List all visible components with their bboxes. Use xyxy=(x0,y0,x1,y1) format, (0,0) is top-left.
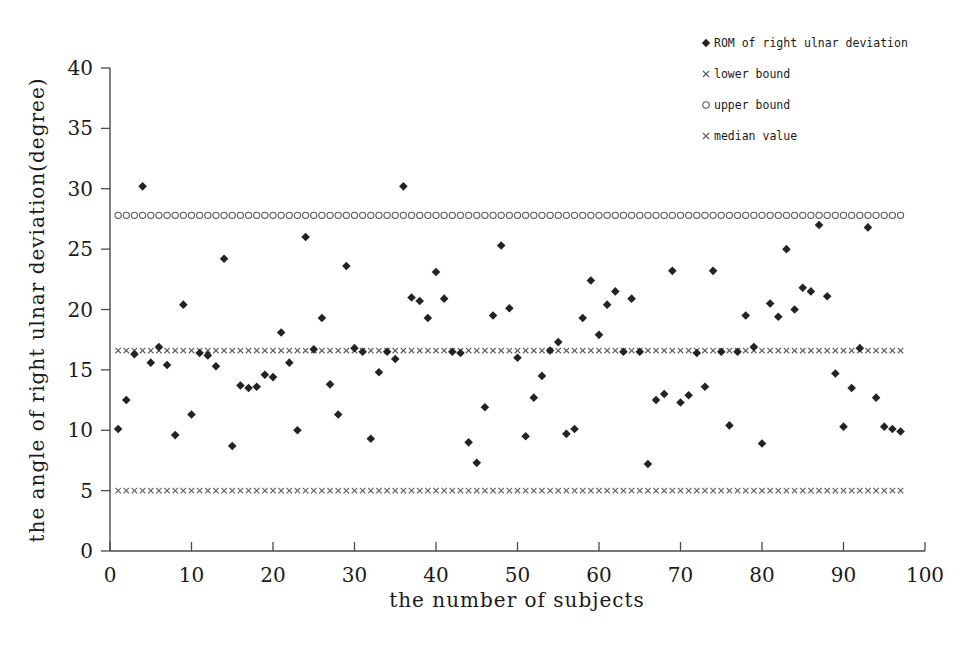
reference-marker xyxy=(588,348,593,353)
reference-marker xyxy=(776,348,781,353)
chart-legend: ROM of right ulnar deviationlower boundu… xyxy=(702,36,908,143)
reference-marker xyxy=(727,348,732,353)
data-point xyxy=(179,300,188,309)
reference-marker xyxy=(417,348,422,353)
data-point xyxy=(456,349,465,358)
x-tick-label: 10 xyxy=(179,563,204,587)
reference-marker xyxy=(474,348,479,353)
reference-marker xyxy=(596,212,602,218)
data-point xyxy=(554,338,563,347)
data-point xyxy=(497,241,506,250)
reference-marker xyxy=(743,212,749,218)
reference-marker xyxy=(808,212,814,218)
reference-marker xyxy=(743,348,748,353)
legend-label: upper bound xyxy=(714,98,790,112)
reference-marker xyxy=(449,212,455,218)
x-axis-ticks: 0102030405060708090100 xyxy=(104,542,944,587)
reference-marker xyxy=(482,212,488,218)
reference-marker xyxy=(734,212,740,218)
data-point xyxy=(301,233,310,242)
data-point xyxy=(839,422,848,431)
reference-marker xyxy=(841,488,846,493)
reference-marker xyxy=(873,212,879,218)
reference-marker xyxy=(515,348,520,353)
reference-marker xyxy=(775,212,781,218)
reference-marker xyxy=(637,488,642,493)
reference-marker xyxy=(474,212,480,218)
reference-marker xyxy=(417,488,422,493)
reference-marker xyxy=(645,348,650,353)
scatter-chart-figure: 0510152025303540 0102030405060708090100 … xyxy=(0,0,976,655)
reference-marker xyxy=(849,488,854,493)
reference-marker xyxy=(352,488,357,493)
reference-marker xyxy=(376,488,381,493)
reference-marker xyxy=(604,348,609,353)
reference-marker xyxy=(710,212,716,218)
data-point xyxy=(489,311,498,320)
reference-marker xyxy=(148,348,153,353)
reference-marker xyxy=(588,488,593,493)
reference-marker xyxy=(572,348,577,353)
legend-label: ROM of right ulnar deviation xyxy=(714,36,908,50)
reference-marker xyxy=(262,348,267,353)
reference-marker xyxy=(727,488,732,493)
reference-marker xyxy=(246,348,251,353)
reference-marker xyxy=(849,348,854,353)
y-tick-label: 20 xyxy=(68,298,93,322)
data-point xyxy=(733,347,742,356)
reference-marker xyxy=(620,212,626,218)
reference-marker xyxy=(629,348,634,353)
reference-marker xyxy=(327,488,332,493)
reference-marker xyxy=(197,212,203,218)
reference-marker xyxy=(181,348,186,353)
reference-marker xyxy=(148,212,154,218)
data-point xyxy=(619,347,628,356)
data-point xyxy=(758,439,767,448)
reference-marker xyxy=(237,212,243,218)
data-point xyxy=(570,425,579,434)
reference-marker xyxy=(523,212,529,218)
reference-marker xyxy=(653,212,659,218)
reference-marker xyxy=(539,488,544,493)
reference-marker xyxy=(343,212,349,218)
y-tick-label: 15 xyxy=(68,358,93,382)
reference-marker xyxy=(188,212,194,218)
reference-marker xyxy=(221,488,226,493)
data-point xyxy=(717,347,726,356)
reference-marker xyxy=(890,488,895,493)
data-point xyxy=(823,292,832,301)
reference-marker xyxy=(466,212,472,218)
data-point xyxy=(725,421,734,430)
reference-marker xyxy=(694,212,700,218)
reference-marker xyxy=(238,348,243,353)
reference-marker xyxy=(115,488,120,493)
data-point xyxy=(790,305,799,314)
reference-marker xyxy=(490,488,495,493)
reference-marker xyxy=(294,212,300,218)
reference-marker xyxy=(670,488,675,493)
reference-marker xyxy=(205,488,210,493)
reference-marker xyxy=(392,212,398,218)
reference-line-upper-bound xyxy=(115,212,904,218)
reference-marker xyxy=(319,212,325,218)
data-point xyxy=(138,182,147,191)
data-point xyxy=(114,425,123,434)
data-point xyxy=(864,223,873,232)
reference-marker xyxy=(882,488,887,493)
data-point xyxy=(652,396,661,405)
reference-marker xyxy=(841,348,846,353)
reference-marker xyxy=(523,348,528,353)
reference-marker xyxy=(783,212,789,218)
reference-marker xyxy=(156,488,161,493)
data-point xyxy=(481,403,490,412)
reference-marker xyxy=(662,488,667,493)
reference-marker xyxy=(898,488,903,493)
legend-marker-diamond xyxy=(702,39,710,47)
data-point xyxy=(464,438,473,447)
data-point xyxy=(155,343,164,352)
reference-marker xyxy=(458,488,463,493)
y-tick-label: 25 xyxy=(68,237,93,261)
reference-marker xyxy=(629,212,635,218)
reference-marker xyxy=(441,488,446,493)
reference-marker xyxy=(686,212,692,218)
